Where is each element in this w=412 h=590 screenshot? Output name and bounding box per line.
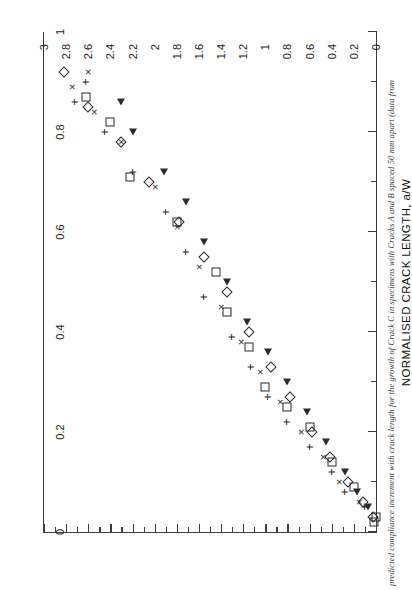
y-axis-tick-label: 1 [259,44,271,50]
x-axis-tick [371,81,377,82]
y-axis-tick [177,524,178,533]
y-axis-tick-label: 3 [38,44,50,50]
data-point-plus: + [262,393,274,400]
data-point-ex: × [274,399,285,405]
data-point-ex: × [216,304,227,310]
data-point-plus: + [180,248,192,255]
y-axis-tick [287,524,288,533]
data-point-triangle [264,349,272,356]
y-axis-tick [66,524,67,533]
y-axis-tick [133,524,134,533]
y-axis-tick-label: 0.6 [304,44,316,59]
y-axis-tick [321,527,322,533]
x-axis-tick [371,181,377,182]
data-point-plus: + [339,488,351,495]
y-axis-tick [221,524,222,533]
data-point-diamond [199,251,210,262]
data-point-triangle [303,409,311,416]
data-point-plus: + [281,418,293,425]
x-axis-tick [368,431,377,432]
y-axis-tick [376,524,377,533]
data-point-plus: + [127,168,139,175]
plot-area: +++++++++++++++××××××××××××××× [44,32,376,532]
data-point-plus: + [80,78,92,85]
y-axis-tick [188,527,189,533]
x-axis-tick-label: 0.8 [54,124,66,139]
y-axis-tick-label: 2.4 [104,44,116,59]
data-point-triangle [243,319,251,326]
data-point-triangle [223,279,231,286]
y-axis-tick-label: 1.2 [237,44,249,59]
y-axis-tick-label: 2.6 [82,44,94,59]
y-axis-tick [343,527,344,533]
data-point-triangle [117,99,125,106]
data-point-ex: × [66,84,77,90]
y-axis-tick [265,524,266,533]
figure-caption-strip: predicted compliance increment with crac… [384,0,408,590]
y-axis-tick-label: 1.8 [171,44,183,59]
y-axis-tick-label: 2 [149,44,161,50]
data-point-ex: × [254,369,265,375]
y-axis-tick [310,524,311,533]
data-point-plus: + [160,208,172,215]
y-axis-tick-label: 0.2 [348,44,360,59]
data-point-diamond [58,66,69,77]
data-point-diamond [284,391,295,402]
y-axis-tick-label: 2.8 [60,44,72,59]
data-point-triangle [200,239,208,246]
data-point-square [261,383,270,392]
y-axis-tick [299,527,300,533]
data-point-ex: × [83,69,94,75]
y-axis-tick [365,527,366,533]
y-axis-tick-label: 2.2 [127,44,139,59]
y-axis-tick [232,527,233,533]
data-point-plus: + [69,98,81,105]
data-point-plus: + [326,468,338,475]
y-axis-tick [354,524,355,533]
y-axis-tick-label: 1.6 [193,44,205,59]
y-axis-tick [166,527,167,533]
y-axis-tick [254,527,255,533]
data-point-square [211,268,220,277]
y-axis-tick [144,527,145,533]
data-point-triangle [182,199,190,206]
data-point-triangle [322,439,330,446]
data-point-diamond [265,361,276,372]
y-axis-tick-label: 0 [370,44,382,50]
y-axis-tick [110,524,111,533]
x-axis-tick [368,331,377,332]
data-point-triangle [129,129,137,136]
data-point-ex: × [193,264,204,270]
y-axis-tick [77,527,78,533]
data-point-plus: + [304,443,316,450]
y-axis-tick [243,524,244,533]
y-axis-tick [276,527,277,533]
data-point-ex: × [235,339,246,345]
x-axis-tick [371,281,377,282]
y-axis-tick [199,524,200,533]
figure-caption: predicted compliance increment with crac… [386,0,396,586]
x-axis-tick-label: 1 [54,29,66,35]
data-point-square [106,118,115,127]
data-point-diamond [221,286,232,297]
data-point-ex: × [295,429,306,435]
x-axis-tick [368,131,377,132]
y-axis-tick [155,524,156,533]
y-axis-tick-label: 0.8 [281,44,293,59]
data-point-plus: + [99,128,111,135]
y-axis-tick [99,527,100,533]
y-axis-tick [210,527,211,533]
x-axis-tick-label: 0.4 [54,324,66,339]
y-axis-tick [332,524,333,533]
y-axis-tick-label: 1.4 [215,44,227,59]
y-axis-tick [121,527,122,533]
data-point-square [82,93,91,102]
y-axis-tick-label: 0.4 [326,44,338,59]
y-axis-tick [88,524,89,533]
x-axis-tick [368,31,377,32]
data-point-triangle [283,379,291,386]
data-point-triangle [341,469,349,476]
